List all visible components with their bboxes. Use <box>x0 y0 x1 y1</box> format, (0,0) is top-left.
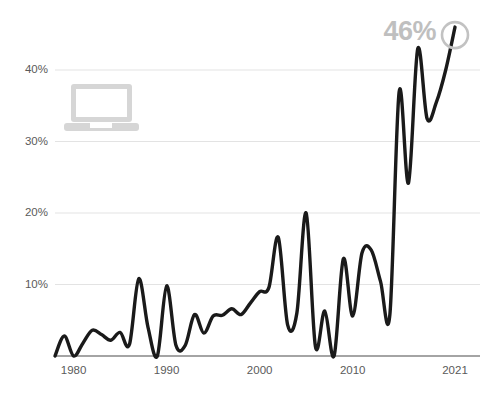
x-axis-tick-label: 2000 <box>247 364 273 376</box>
data-line-series <box>55 27 455 357</box>
y-axis-tick-label: 40% <box>25 63 48 75</box>
y-axis-tick-label: 30% <box>25 135 48 147</box>
x-axis-tick-label: 2010 <box>340 364 366 376</box>
x-axis-tick-labels: 19801990200020102021 <box>61 364 468 376</box>
callout-value-label: 46% <box>383 16 436 46</box>
line-chart: 10%20%30%40% 19801990200020102021 46% <box>0 0 491 400</box>
x-axis-tick-label: 1980 <box>61 364 87 376</box>
chart-container: 10%20%30%40% 19801990200020102021 46% <box>0 0 491 400</box>
x-axis-tick-label: 1990 <box>154 364 180 376</box>
x-axis-tick-label: 2021 <box>442 364 468 376</box>
y-axis-tick-labels: 10%20%30%40% <box>25 63 48 290</box>
laptop-icon <box>64 84 139 131</box>
y-axis-tick-label: 10% <box>25 278 48 290</box>
y-axis-tick-label: 20% <box>25 206 48 218</box>
